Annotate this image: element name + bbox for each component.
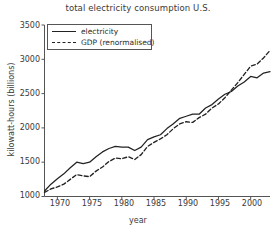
legend: electricity GDP (renormalised) — [47, 24, 152, 50]
legend-item-gdp: GDP (renormalised) — [52, 37, 155, 48]
dashed-line-swatch — [52, 42, 76, 43]
legend-label-electricity: electricity — [81, 26, 118, 37]
legend-item-electricity: electricity — [52, 26, 118, 37]
axis-spines — [45, 25, 271, 197]
legend-label-gdp: GDP (renormalised) — [81, 37, 155, 48]
solid-line-swatch — [52, 31, 76, 32]
series-line-gdp — [45, 50, 271, 192]
series-line-electricity — [45, 72, 271, 191]
chart-figure: total electricity consumption U.S. kilow… — [0, 0, 276, 238]
